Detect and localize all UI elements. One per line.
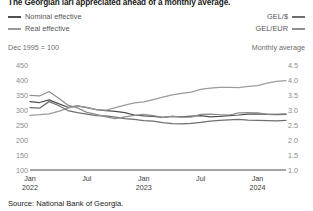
legend-label: Real effective	[25, 24, 70, 33]
page-title: The Georgian lari appreciated ahead of a…	[8, 0, 308, 7]
legend-label: Nominal effective	[25, 12, 82, 21]
x-tick-label: Jan2024	[250, 174, 266, 192]
line-swatch-icon	[8, 28, 21, 30]
legend-left: Nominal effective Real effective	[8, 12, 82, 33]
legend-label: GEL/EUR	[256, 24, 288, 33]
x-tick-label: Jul	[82, 174, 91, 183]
legend-item-gel-usd: GEL/$	[267, 12, 305, 21]
legend-item-nominal-effective: Nominal effective	[8, 12, 82, 21]
line-swatch-icon	[8, 16, 21, 18]
x-tick-label: Jan2023	[136, 174, 152, 192]
chart-page: The Georgian lari appreciated ahead of a…	[0, 0, 313, 211]
line-swatch-icon	[292, 16, 305, 18]
legend-item-gel-eur: GEL/EUR	[256, 24, 305, 33]
line-swatch-icon	[292, 28, 305, 30]
x-tick-label: Jul	[196, 174, 205, 183]
right-axis-caption: Monthly average	[252, 43, 305, 52]
x-tick-label: Jan2022	[22, 174, 38, 192]
legend-item-real-effective: Real effective	[8, 24, 82, 33]
left-axis-caption: Dec 1995 = 100	[8, 43, 59, 52]
plot-area: 450400350300250200150100 4.54.03.53.02.5…	[0, 54, 313, 174]
line-chart	[0, 54, 313, 174]
legend-right: GEL/$ GEL/EUR	[256, 12, 305, 33]
legend-label: GEL/$	[267, 12, 288, 21]
x-axis-labels: Jan2022JulJan2023JulJan2024	[0, 174, 313, 196]
source-note: Source: National Bank of Georgia.	[8, 199, 123, 208]
